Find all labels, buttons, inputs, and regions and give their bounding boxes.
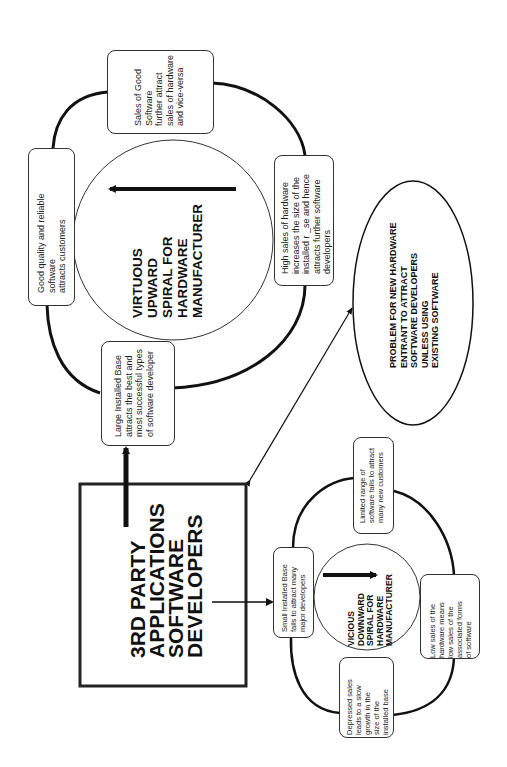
virtuous-spiral-title: VIRTUOUS UPWARD SPIRAL FOR HARDWARE MANU…	[130, 204, 205, 318]
text-depressed-sales: Depressed sales leads to a slow growth i…	[345, 679, 390, 735]
vicious-spiral-title: VICIOUS DOWNWARD SPIRAL FOR HARDWARE MAN…	[347, 574, 395, 646]
text-low-sales: Low sales of the hardware means low sale…	[428, 601, 473, 658]
text-high-sales-hardware: High sales of hardware increases the siz…	[280, 174, 333, 274]
third-party-title: 3RD PARTY APPLICATIONS SOFTWARE DEVELOPE…	[128, 503, 204, 658]
text-good-software: Good quality and reliable software attra…	[36, 193, 68, 293]
problem-text: PROBLEM FOR NEW HARDWARE ENTRANT TO ATTR…	[388, 223, 441, 369]
text-sales-good-software: Sales of Good Software further attract s…	[133, 55, 186, 126]
text-large-installed-base: Large Installed Base attracts the best a…	[113, 349, 155, 437]
text-limited-range: Limited range of software fails to attra…	[358, 448, 385, 523]
text-small-installed-base: Small Installed Base fails to attract ma…	[280, 564, 307, 632]
problem-link	[250, 308, 352, 480]
